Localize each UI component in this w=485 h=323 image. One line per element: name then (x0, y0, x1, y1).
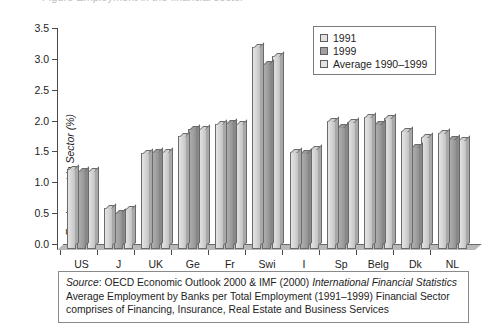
x-axis-tick (134, 250, 135, 255)
x-axis-tick (282, 250, 283, 255)
x-axis-label: Belg (368, 258, 389, 270)
footnote-line-1: Source: OECD Economic Outlook 2000 & IMF… (66, 276, 462, 290)
x-axis-label: Sp (335, 258, 348, 270)
x-axis-label: Ge (186, 258, 200, 270)
x-axis-tick (171, 250, 172, 255)
bar-group (137, 28, 174, 249)
x-axis-tick (356, 250, 357, 255)
bar (438, 133, 447, 249)
footnote-source-label: Source (66, 277, 99, 288)
bar-group (174, 28, 211, 249)
legend-swatch-icon (320, 60, 328, 68)
bar-group (63, 28, 100, 249)
cut-off-title-text: Figure Employment in the financial secto… (42, 0, 244, 3)
footnote-source-text: OECD Economic Outlook 2000 & IMF (2000) (104, 277, 309, 288)
bar (141, 153, 150, 249)
bar (401, 131, 410, 249)
legend-swatch-icon (320, 47, 328, 55)
legend-label: 1999 (333, 45, 356, 57)
bar (327, 121, 336, 249)
legend-label: 1991 (333, 32, 356, 44)
x-axis-label: Fr (225, 258, 235, 270)
cut-off-title: Figure Employment in the financial secto… (0, 0, 485, 7)
x-axis-tick (393, 250, 394, 255)
y-axis-tick-label: 0.5 (34, 207, 49, 219)
x-axis-label: I (303, 258, 306, 270)
y-axis-tick-label: 1.5 (34, 145, 49, 157)
bar (67, 169, 76, 249)
bar (364, 117, 373, 249)
x-axis-label: US (74, 258, 89, 270)
y-axis-tick-label: 2.5 (34, 84, 49, 96)
bar (104, 208, 113, 249)
bar-group (248, 28, 285, 249)
bar (290, 152, 299, 250)
footnote-line-3: comprises of Financing, Insurance, Real … (66, 303, 462, 317)
x-axis-tick (97, 250, 98, 255)
y-axis-tick-label: 0.0 (34, 238, 49, 250)
legend-label: Average 1990–1999 (333, 58, 427, 70)
y-axis-tick-label: 3.5 (34, 22, 49, 34)
x-axis-tick (319, 250, 320, 255)
legend-entry: Average 1990–1999 (320, 57, 427, 70)
bar (252, 47, 261, 249)
bar (178, 136, 187, 249)
y-axis-tick-label: 2.0 (34, 115, 49, 127)
legend: 19911999Average 1990–1999 (313, 26, 436, 75)
x-axis-label: Swi (259, 258, 276, 270)
footnote-source-italic-tail: International Financial Statistics (312, 277, 457, 288)
footnote-box: Source: OECD Economic Outlook 2000 & IMF… (58, 271, 469, 323)
x-axis-label: Dk (409, 258, 422, 270)
footnote-source-sep: : (99, 277, 102, 288)
legend-swatch-icon (320, 34, 328, 42)
bar-group (100, 28, 137, 249)
x-axis-label: UK (148, 258, 163, 270)
x-axis-label: J (116, 258, 121, 270)
bar-group (211, 28, 248, 249)
y-axis-tick-label: 1.0 (34, 176, 49, 188)
legend-entry: 1999 (320, 44, 427, 57)
x-axis-tick (245, 250, 246, 255)
bar (215, 124, 224, 249)
x-axis-tick (430, 250, 431, 255)
x-axis-tick (208, 250, 209, 255)
bar-group (434, 28, 471, 249)
y-axis-tick-label: 3.0 (34, 53, 49, 65)
x-axis-label: NL (446, 258, 459, 270)
legend-entry: 1991 (320, 31, 427, 44)
footnote-line-2: Average Employment by Banks per Total Em… (66, 290, 462, 304)
x-axis-tick (60, 250, 61, 255)
